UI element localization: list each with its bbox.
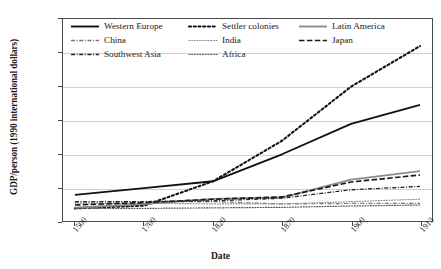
legend-item[interactable]: Japan xyxy=(298,36,390,45)
legend-item[interactable]: Western Europe xyxy=(70,22,188,31)
series-line xyxy=(75,186,420,202)
legend-item[interactable]: Latin America xyxy=(298,22,390,31)
legend-label: China xyxy=(104,36,126,45)
legend-item[interactable]: China xyxy=(70,36,188,45)
legend-label: Southwest Asia xyxy=(104,50,161,59)
legend-line-swatch xyxy=(188,50,218,59)
legend-label: Japan xyxy=(332,36,353,45)
y-tick-mark xyxy=(58,222,62,223)
series-line xyxy=(75,105,420,195)
legend-item[interactable]: Settler colonies xyxy=(188,22,298,31)
y-axis-title: GDP/person (1990 international dollars) xyxy=(9,17,19,217)
x-axis-title: Date xyxy=(0,250,441,261)
legend-line-swatch xyxy=(298,22,328,31)
legend-line-swatch xyxy=(188,22,218,31)
legend-line-swatch xyxy=(70,22,100,31)
legend-item[interactable]: Africa xyxy=(188,50,298,59)
legend-line-swatch xyxy=(70,50,100,59)
chart-figure: GDP/person (1990 international dollars) … xyxy=(0,0,441,269)
legend-item[interactable]: India xyxy=(188,36,298,45)
chart-legend: Western EuropeSettler coloniesLatin Amer… xyxy=(70,20,390,62)
legend-line-swatch xyxy=(188,36,218,45)
legend-label: Latin America xyxy=(332,22,385,31)
legend-label: Settler colonies xyxy=(222,22,279,31)
legend-line-swatch xyxy=(70,36,100,45)
legend-line-swatch xyxy=(298,36,328,45)
legend-label: Western Europe xyxy=(104,22,163,31)
series-line xyxy=(75,46,420,208)
legend-label: Africa xyxy=(222,50,245,59)
legend-item[interactable]: Southwest Asia xyxy=(70,50,188,59)
legend-label: India xyxy=(222,36,241,45)
